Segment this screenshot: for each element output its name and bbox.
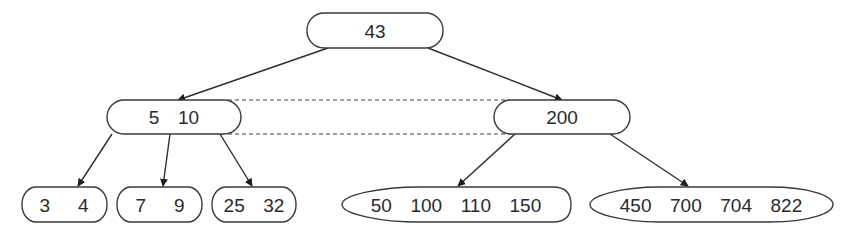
edge-left-to-leaf2 xyxy=(163,134,170,186)
node-internal-left-label: 5 10 xyxy=(149,107,199,128)
node-leaf-1-label: 3 4 xyxy=(40,195,89,216)
node-root-label: 43 xyxy=(364,21,385,42)
edge-right-to-leaf5 xyxy=(610,134,688,186)
edge-left-to-leaf3 xyxy=(220,134,252,186)
node-internal-right: 200 xyxy=(494,100,630,134)
edge-root-to-left xyxy=(178,48,328,100)
node-leaf-1: 3 4 xyxy=(22,187,107,222)
node-root: 43 xyxy=(307,13,443,48)
node-leaf-5: 450 700 704 822 xyxy=(590,187,833,222)
b-tree-diagram: 43 5 10 200 3 4 7 9 25 32 50 100 110 150… xyxy=(0,0,852,241)
node-leaf-2: 7 9 xyxy=(117,187,202,222)
node-internal-right-label: 200 xyxy=(546,107,578,128)
node-leaf-2-label: 7 9 xyxy=(136,195,185,216)
node-leaf-4: 50 100 110 150 xyxy=(342,187,571,222)
edge-right-to-leaf4 xyxy=(458,134,515,186)
edge-root-to-right xyxy=(428,48,562,100)
node-leaf-3-label: 25 32 xyxy=(224,195,285,216)
node-leaf-4-label: 50 100 110 150 xyxy=(371,195,542,216)
node-leaf-3: 25 32 xyxy=(212,187,296,222)
node-leaf-5-label: 450 700 704 822 xyxy=(620,195,802,216)
node-internal-left: 5 10 xyxy=(107,100,241,134)
edge-left-to-leaf1 xyxy=(78,134,112,186)
